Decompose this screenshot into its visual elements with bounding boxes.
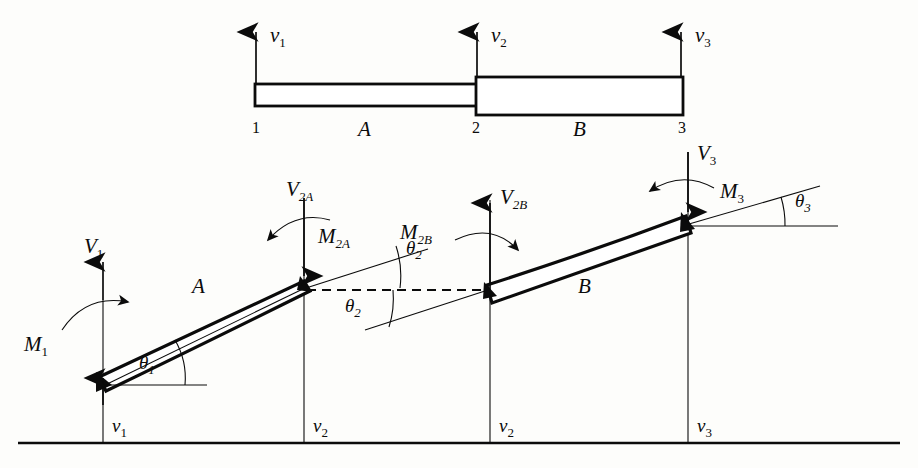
top-label-v1: v1	[270, 23, 286, 50]
label-M1: M1	[23, 332, 48, 359]
label-V1: V1	[84, 234, 103, 261]
label-M2A: M2A	[317, 224, 350, 251]
theta2-lower-tangent	[365, 290, 488, 330]
top-beam-element-b	[476, 77, 683, 115]
label-V2B: V2B	[500, 185, 527, 212]
neutral-axis-a	[103, 287, 307, 386]
theta3-arc	[781, 197, 785, 226]
label-V3: V3	[697, 141, 716, 168]
bottom-label-v3: v3	[697, 415, 712, 440]
top-label-v3: v3	[695, 23, 711, 50]
top-element-label-a: A	[356, 117, 371, 141]
top-node-label-2: 2	[472, 119, 480, 136]
top-node-label-3: 3	[678, 119, 686, 136]
top-beam-element-a	[255, 84, 477, 106]
bottom-element-label-b: B	[578, 274, 591, 298]
beam-diagram-figure: v1 v2 v3 1 2 3 A B	[0, 0, 918, 468]
arc-M3	[650, 180, 714, 191]
top-diagram-group: v1 v2 v3 1 2 3 A B	[252, 23, 711, 141]
theta2-upper-arc	[396, 246, 401, 288]
top-node-label-1: 1	[252, 119, 260, 136]
figure-canvas: v1 v2 v3 1 2 3 A B	[0, 0, 918, 468]
arc-M1	[62, 301, 128, 330]
top-element-label-b: B	[573, 117, 586, 141]
bottom-element-label-a: A	[190, 274, 205, 298]
label-V2A: V2A	[286, 177, 313, 204]
bottom-label-v2b: v2	[499, 415, 514, 440]
bottom-diagram-group: v1 v2 v2 v3	[18, 141, 900, 443]
arc-M2B	[455, 233, 518, 250]
label-theta2-lower: θ2	[345, 295, 361, 320]
bottom-label-v2a: v2	[313, 415, 328, 440]
label-M2B: M2B	[399, 220, 432, 247]
top-label-v2: v2	[491, 23, 507, 50]
label-M3: M3	[719, 179, 744, 206]
bottom-label-v1: v1	[112, 415, 127, 440]
label-theta3: θ3	[795, 190, 811, 215]
